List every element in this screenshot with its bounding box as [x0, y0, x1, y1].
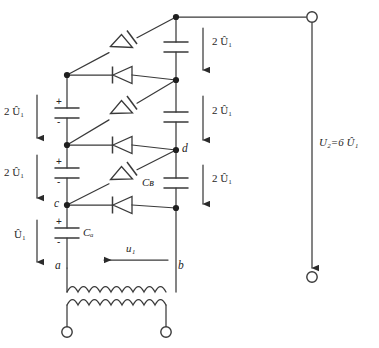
diode-horizontal-2	[113, 137, 133, 154]
diode-diagonal-3	[111, 162, 138, 180]
terminal-output-top	[307, 12, 317, 22]
terminal-input-left	[62, 327, 72, 337]
node-left-2	[64, 142, 70, 148]
diode-horizontal-3	[113, 197, 133, 214]
polarity-minus-capL2: -	[57, 176, 60, 187]
wire-horiz3-right-seg	[132, 205, 176, 208]
right-stage-voltage-3: 2 Û₁	[212, 172, 232, 184]
wire-diag3-right-seg	[137, 150, 176, 170]
circuit-diagram: 2 Û₁ 2 Û₁ Û₁ 2 Û₁ 2 Û₁ 2 Û₁ U₂=6 Û₁ u₁ a…	[0, 0, 379, 348]
polarity-plus-capL2: +	[56, 156, 62, 167]
diode-diagonal-2	[111, 96, 138, 114]
node-left-3	[64, 72, 70, 78]
left-stage-voltage-1: 2 Û₁	[4, 105, 24, 117]
input-voltage-label: u₁	[126, 242, 135, 254]
node-label-b: b	[178, 259, 184, 271]
diode-horizontal-1	[113, 67, 133, 84]
junction-dots	[64, 14, 179, 211]
node-right-top	[173, 14, 179, 20]
output-voltage-label: U₂=6 Û₁	[319, 136, 358, 148]
node-label-a: a	[55, 259, 61, 271]
node-right-1	[173, 205, 179, 211]
node-label-d: d	[182, 142, 188, 154]
left-stage-voltage-2: 2 Û₁	[4, 166, 24, 178]
node-c	[64, 202, 70, 208]
transformer-secondary-winding	[67, 287, 166, 293]
wire-diag1-left-seg	[67, 53, 109, 75]
node-right-3	[173, 77, 179, 83]
wire-horiz1-right-seg	[132, 75, 176, 80]
terminal-input-right	[161, 327, 171, 337]
polarity-minus-capL3: -	[57, 116, 60, 127]
polarity-plus-capA: +	[56, 216, 62, 227]
schematic-svg	[0, 0, 379, 348]
terminal-output-bottom	[307, 272, 317, 282]
wire-diag2-right-seg	[137, 80, 176, 103]
wire-diag1-right-seg	[137, 17, 176, 38]
polarity-plus-capL3: +	[56, 96, 62, 107]
right-stage-voltage-2: 2 Û₁	[212, 104, 232, 116]
terminals	[62, 12, 317, 337]
wire-diag2-left-seg	[67, 120, 109, 145]
transformer-primary-winding	[67, 300, 166, 306]
capacitor-label-a: Cₐ	[83, 226, 94, 238]
wire-horiz2-right-seg	[132, 145, 176, 150]
diode-diagonal-1	[111, 31, 138, 48]
polarity-minus-capA: -	[57, 236, 60, 247]
right-stage-voltage-1: 2 Û₁	[212, 35, 232, 47]
node-label-c: c	[54, 197, 59, 209]
wire-diag3-left-seg	[67, 184, 109, 205]
node-d	[173, 147, 179, 153]
left-stage-voltage-3: Û₁	[14, 228, 26, 240]
capacitor-label-b: Cʙ	[142, 176, 154, 188]
